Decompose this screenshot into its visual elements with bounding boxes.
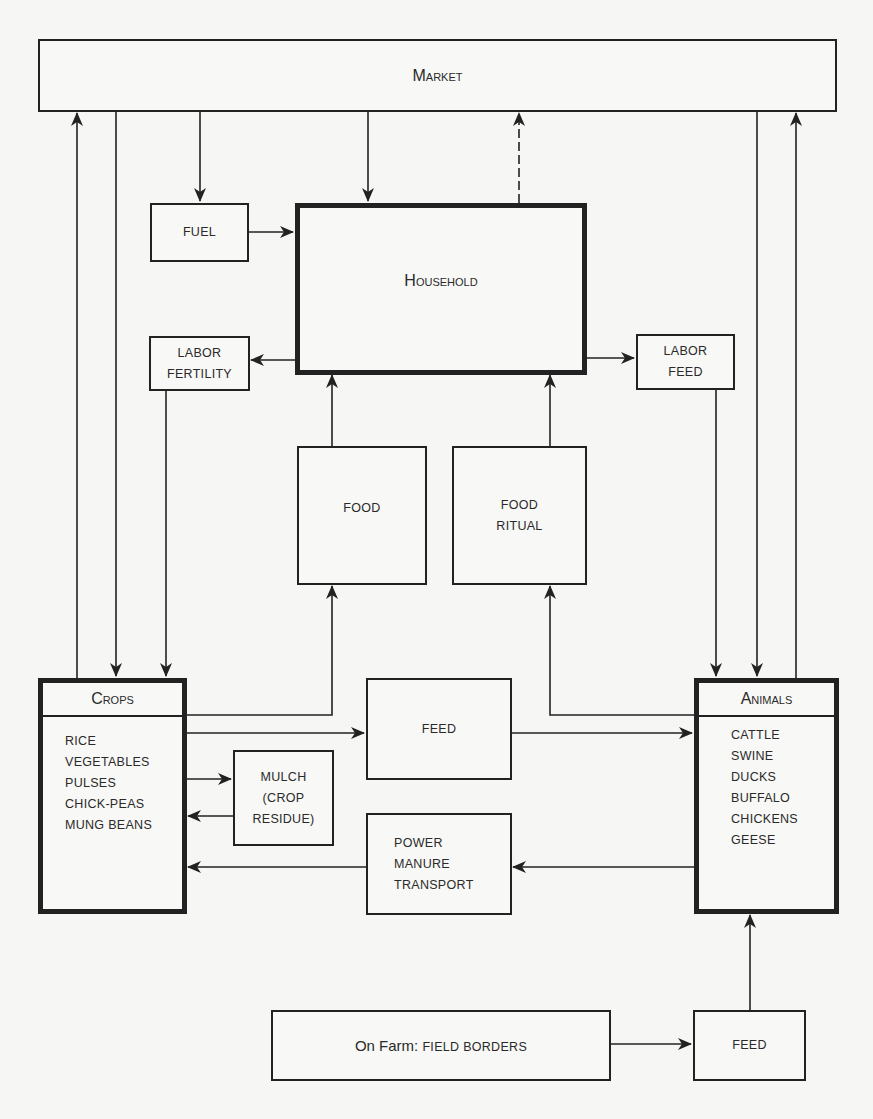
market-label: Market [412, 67, 462, 85]
power-line1: POWER [394, 833, 443, 854]
power-line3: TRANSPORT [394, 875, 474, 896]
animal-item: DUCKS [731, 767, 834, 788]
labor-fertility-node: LABOR FERTILITY [149, 336, 250, 391]
household-node: Household [295, 203, 587, 375]
connector-layer [0, 0, 873, 1119]
animals-list: CATTLE SWINE DUCKS BUFFALO CHICKENS GEES… [699, 717, 834, 851]
crop-item: PULSES [65, 773, 182, 794]
market-node: Market [38, 39, 837, 112]
edge-animals-to-food-ritual [550, 586, 694, 715]
animal-item: SWINE [731, 746, 834, 767]
animal-item: GEESE [731, 830, 834, 851]
animal-item: CHICKENS [731, 809, 834, 830]
mulch-line1: MULCH [261, 767, 307, 788]
on-farm-text: FIELD BORDERS [422, 1040, 527, 1054]
fuel-label: FUEL [183, 222, 216, 243]
labor-fertility-line1: LABOR [178, 343, 222, 364]
crops-node: Crops RICE VEGETABLES PULSES CHICK-PEAS … [38, 678, 187, 914]
household-label: Household [404, 272, 477, 290]
feed-bottom-label: FEED [732, 1035, 767, 1056]
food-label: FOOD [343, 498, 380, 519]
crop-item: VEGETABLES [65, 752, 182, 773]
crop-item: RICE [65, 731, 182, 752]
mulch-node: MULCH (CROP RESIDUE) [233, 750, 334, 846]
animals-title: Animals [699, 683, 834, 717]
crop-item: CHICK-PEAS [65, 794, 182, 815]
on-farm-node: On Farm: FIELD BORDERS [271, 1010, 611, 1081]
labor-feed-node: LABOR FEED [636, 334, 735, 390]
labor-feed-line1: LABOR [664, 341, 708, 362]
edge-crops-to-food [186, 586, 332, 715]
animal-item: CATTLE [731, 725, 834, 746]
feed-mid-node: FEED [366, 678, 512, 780]
mulch-line3: RESIDUE) [252, 809, 314, 830]
food-ritual-node: FOOD RITUAL [452, 446, 587, 585]
fuel-node: FUEL [150, 203, 249, 262]
animal-item: BUFFALO [731, 788, 834, 809]
on-farm-prefix: On Farm: [355, 1037, 418, 1054]
mulch-line2: (CROP [263, 788, 305, 809]
on-farm-label: On Farm: FIELD BORDERS [355, 1037, 527, 1054]
animals-node: Animals CATTLE SWINE DUCKS BUFFALO CHICK… [694, 678, 839, 914]
power-line2: MANURE [394, 854, 450, 875]
feed-mid-label: FEED [422, 719, 457, 740]
food-ritual-line1: FOOD [501, 495, 538, 516]
crops-title: Crops [43, 683, 182, 717]
food-ritual-line2: RITUAL [496, 516, 542, 537]
power-node: POWER MANURE TRANSPORT [366, 813, 512, 915]
food-node: FOOD [297, 446, 427, 585]
labor-feed-line2: FEED [668, 362, 703, 383]
labor-fertility-line2: FERTILITY [167, 364, 232, 385]
crop-item: MUNG BEANS [65, 815, 182, 836]
crops-list: RICE VEGETABLES PULSES CHICK-PEAS MUNG B… [43, 717, 182, 836]
feed-bottom-node: FEED [693, 1010, 806, 1081]
